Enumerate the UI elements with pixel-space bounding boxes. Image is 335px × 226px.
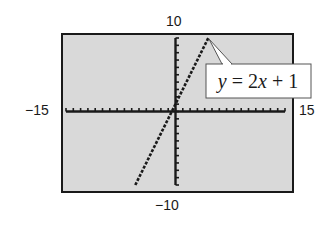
screen-frame xyxy=(62,34,293,192)
callout-equation-text: y = 2x + 1 xyxy=(216,70,298,93)
graphing-calculator-screen: y = 2x + 1 xyxy=(0,0,335,226)
